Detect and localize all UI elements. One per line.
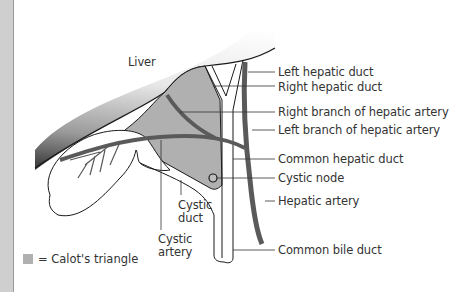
legend-swatch (23, 254, 33, 264)
label-right-branch-hepatic-artery: Right branch of hepatic artery (278, 106, 449, 119)
hepatic-artery (244, 62, 262, 244)
label-left-branch-hepatic-artery: Left branch of hepatic artery (278, 124, 440, 137)
calots-triangle (125, 66, 222, 189)
label-left-hepatic-duct: Left hepatic duct (278, 66, 373, 79)
legend-text: = Calot's triangle (38, 252, 138, 266)
label-cystic-artery-2: artery (158, 246, 192, 259)
legend: = Calot's triangle (23, 252, 138, 266)
label-cystic-duct-2: duct (178, 212, 203, 225)
label-common-hepatic-duct: Common hepatic duct (278, 153, 403, 166)
common-hepatic-duct-right (224, 110, 233, 263)
label-hepatic-artery: Hepatic artery (278, 195, 359, 208)
label-common-bile-duct: Common bile duct (278, 244, 382, 257)
label-liver: Liver (128, 56, 156, 69)
label-right-hepatic-duct: Right hepatic duct (278, 81, 382, 94)
cystic-node (209, 174, 217, 182)
label-cystic-node: Cystic node (278, 172, 344, 185)
